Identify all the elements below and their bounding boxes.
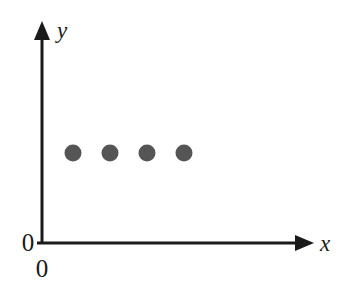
plot-background: [0, 0, 344, 297]
data-point: [139, 145, 156, 162]
origin-label-left: 0: [22, 229, 35, 256]
data-point: [102, 145, 119, 162]
x-axis-label: x: [319, 231, 331, 256]
scatter-plot: y x 0 0: [0, 0, 344, 297]
y-axis-label: y: [55, 18, 68, 43]
data-point: [65, 145, 82, 162]
origin-label-below: 0: [36, 255, 49, 282]
data-point: [176, 145, 193, 162]
figure-root: y x 0 0: [0, 0, 344, 297]
